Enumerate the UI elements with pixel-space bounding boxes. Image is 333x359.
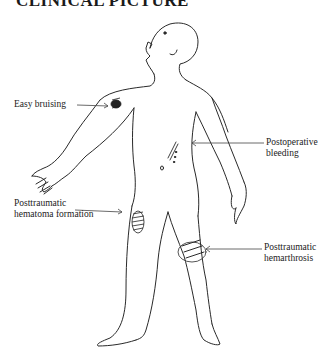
hematoma-mark [132,211,144,233]
label-easy-bruising: Easy bruising [14,99,66,110]
label-posttraumatic-hemarthrosis: Posttraumatic hemarthrosis [264,242,316,264]
label-line2: hematoma formation [14,209,93,220]
head-outline [150,23,198,80]
human-figure-illustration [0,0,333,359]
label-line1: Postoperative [266,137,318,148]
label-text: Easy bruising [14,99,66,109]
label-line2: hemarthrosis [264,253,316,264]
bruise-mark [111,98,121,108]
label-posttraumatic-hematoma: Posttraumatic hematoma formation [14,198,93,220]
label-line2: bleeding [266,148,318,159]
label-line1: Posttraumatic [264,242,316,253]
label-postoperative-bleeding: Postoperative bleeding [266,137,318,159]
label-line1: Posttraumatic [14,198,93,209]
